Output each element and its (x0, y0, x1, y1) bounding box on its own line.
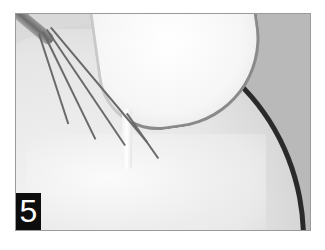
liquid-in-bowl (26, 134, 266, 230)
cooking-step-photo (16, 14, 310, 230)
step-number-badge: 5 (16, 193, 41, 230)
